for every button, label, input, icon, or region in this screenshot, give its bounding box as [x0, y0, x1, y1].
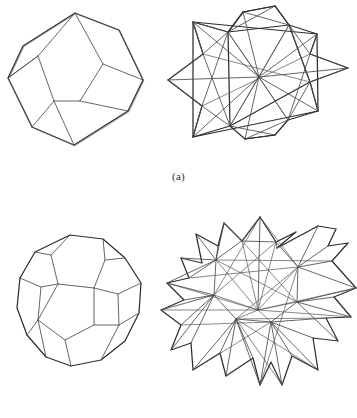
panel-b: (b) [0, 205, 357, 418]
figure-rhombic-dodecahedron [2, 0, 162, 160]
spd-ridges [161, 217, 356, 385]
rd-outline [8, 13, 144, 146]
stellated-rhombic-dodecahedron-svg [162, 0, 357, 160]
panel-a-label: (a) [0, 170, 357, 182]
figure-page: (a) [0, 0, 357, 418]
rd-inner-edges [8, 13, 143, 145]
figure-pentagonal-dodecahedron [8, 230, 158, 380]
rhombic-dodecahedron-svg [2, 0, 162, 160]
panel-a: (a) [0, 0, 357, 200]
figure-stellated-pentagonal-dodecahedron [158, 210, 357, 395]
srd-inner-edges [168, 6, 348, 139]
stellated-pentagonal-dodecahedron-svg [158, 210, 357, 395]
pd-inner-edges [20, 235, 141, 366]
figure-stellated-rhombic-dodecahedron [162, 0, 357, 160]
pentagonal-dodecahedron-svg [8, 230, 158, 380]
pd-outline [17, 235, 141, 366]
